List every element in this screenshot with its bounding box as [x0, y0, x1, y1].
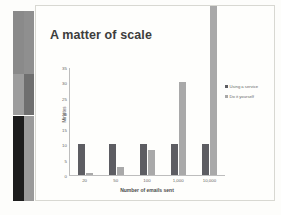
- slide-title: A matter of scale: [50, 28, 152, 42]
- bar-group: [194, 68, 225, 175]
- bar: [202, 144, 209, 175]
- chart-legend: Using a serviceDo it yourself: [225, 84, 271, 104]
- bar-group: [132, 68, 163, 175]
- legend-item: Do it yourself: [225, 94, 271, 99]
- bar: [140, 144, 147, 175]
- slide-screenshot: A matter of scale Minutes 05101520253035…: [0, 0, 281, 215]
- scan-strip-left-segment-bottom: [13, 116, 24, 202]
- legend-swatch-icon: [225, 95, 228, 98]
- bar-group: [163, 68, 194, 175]
- y-axis-tick: 5: [51, 158, 67, 163]
- legend-item: Using a service: [225, 84, 271, 89]
- presentation-slide: A matter of scale Minutes 05101520253035…: [35, 5, 275, 201]
- bar: [117, 167, 124, 175]
- x-axis-title: Number of emails sent: [69, 187, 225, 193]
- x-axis-tick: 10,000: [194, 178, 225, 183]
- bar-group: [101, 68, 132, 175]
- bar: [78, 144, 85, 175]
- y-axis-tick: 25: [51, 96, 67, 101]
- scan-strip-left: [13, 11, 24, 201]
- y-axis-tick: 10: [51, 143, 67, 148]
- y-axis-tick: 0: [51, 174, 67, 179]
- y-axis-tick-labels: 05101520253035: [51, 68, 67, 176]
- scan-strip-right-segment-middle: [24, 74, 34, 116]
- x-axis-tick: 20: [69, 178, 100, 183]
- bar-group: [70, 68, 101, 175]
- scan-strip-left-segment-top: [13, 11, 24, 74]
- bar: [86, 173, 93, 175]
- bar: [210, 5, 217, 175]
- y-axis-tick: 35: [51, 66, 67, 71]
- x-axis-tick-labels: 20501001,00010,000: [69, 178, 225, 183]
- scan-strip-right-segment-top: [24, 11, 34, 74]
- y-axis-tick: 20: [51, 112, 67, 117]
- scan-strip-right: [24, 11, 34, 201]
- scan-strip-left-segment-middle: [13, 74, 24, 116]
- bar: [179, 82, 186, 175]
- legend-label: Do it yourself: [230, 94, 254, 99]
- bar: [171, 144, 178, 175]
- y-axis-tick: 30: [51, 81, 67, 86]
- bar-chart: Minutes 05101520253035 20501001,00010,00…: [41, 68, 273, 200]
- y-axis-tick: 15: [51, 127, 67, 132]
- x-axis-tick: 1,000: [163, 178, 194, 183]
- plot-area: [69, 68, 225, 176]
- bar-groups: [70, 68, 225, 175]
- bar: [148, 150, 155, 175]
- legend-swatch-icon: [225, 85, 228, 88]
- scan-strip-right-segment-bottom: [24, 116, 34, 202]
- bar: [109, 144, 116, 175]
- x-axis-tick: 50: [100, 178, 131, 183]
- x-axis-tick: 100: [131, 178, 162, 183]
- legend-label: Using a service: [230, 84, 259, 89]
